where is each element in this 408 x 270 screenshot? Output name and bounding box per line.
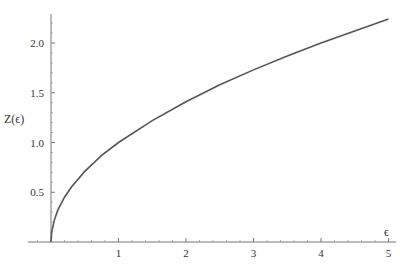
- plot-area: 123450.51.01.52.0 Z(ϵ) ϵ: [0, 0, 408, 270]
- major-ticks: 123450.51.01.52.0: [30, 37, 392, 259]
- x-tick-label: 4: [318, 247, 324, 259]
- y-tick-label: 2.0: [30, 37, 44, 49]
- x-tick-label: 1: [116, 247, 122, 259]
- x-axis-label: ϵ: [384, 225, 389, 239]
- y-tick-label: 1.5: [30, 87, 44, 99]
- data-curve: [51, 19, 389, 242]
- x-tick-label: 5: [386, 247, 392, 259]
- x-tick-label: 3: [251, 247, 257, 259]
- minor-ticks: [38, 23, 376, 242]
- axes: [28, 14, 396, 242]
- y-tick-label: 1.0: [30, 137, 44, 149]
- y-tick-label: 0.5: [30, 186, 44, 198]
- x-tick-label: 2: [183, 247, 189, 259]
- y-axis-label: Z(ϵ): [4, 112, 24, 126]
